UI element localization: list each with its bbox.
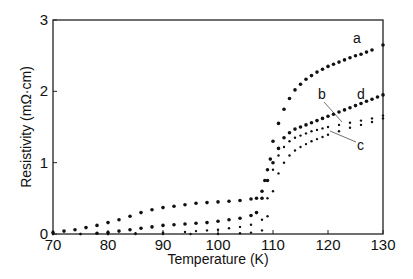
data-point bbox=[283, 146, 285, 148]
data-point bbox=[349, 127, 351, 129]
data-point bbox=[189, 233, 191, 235]
x-tick-label: 130 bbox=[370, 236, 395, 253]
y-tick-label: 1 bbox=[40, 154, 48, 171]
data-point bbox=[310, 121, 314, 125]
data-point bbox=[261, 229, 263, 231]
data-point bbox=[172, 204, 176, 208]
data-point bbox=[194, 202, 198, 206]
data-point bbox=[266, 168, 270, 172]
data-point bbox=[216, 219, 220, 223]
data-point bbox=[260, 189, 264, 193]
x-tick-label: 80 bbox=[100, 236, 117, 253]
data-point bbox=[266, 197, 268, 199]
data-point bbox=[107, 233, 109, 235]
data-point bbox=[282, 107, 286, 111]
data-point bbox=[365, 50, 369, 54]
data-point bbox=[354, 54, 358, 58]
data-point bbox=[272, 190, 274, 192]
data-point bbox=[95, 224, 99, 228]
data-point bbox=[106, 221, 110, 225]
series-a bbox=[51, 43, 385, 234]
data-point bbox=[238, 217, 242, 221]
data-point bbox=[217, 229, 219, 231]
data-point bbox=[216, 200, 220, 204]
data-point bbox=[239, 226, 241, 228]
data-point bbox=[337, 60, 341, 64]
data-point bbox=[294, 137, 296, 139]
data-series bbox=[51, 43, 385, 235]
data-point bbox=[338, 124, 340, 126]
data-point bbox=[337, 110, 341, 114]
curve-labels: a b d c bbox=[318, 30, 365, 153]
y-axis-title: Resistivity (mΩ·cm) bbox=[18, 66, 34, 188]
data-point bbox=[343, 58, 347, 62]
data-point bbox=[260, 197, 264, 201]
data-point bbox=[266, 179, 270, 183]
data-point bbox=[382, 114, 384, 116]
data-point bbox=[271, 161, 275, 165]
data-point bbox=[117, 229, 121, 233]
data-point bbox=[348, 106, 352, 110]
data-point bbox=[277, 154, 279, 156]
data-point bbox=[359, 102, 363, 106]
data-point bbox=[348, 56, 352, 60]
data-point bbox=[294, 149, 296, 151]
data-point bbox=[365, 100, 369, 104]
series-d bbox=[95, 93, 385, 235]
data-point bbox=[343, 108, 347, 112]
data-point bbox=[95, 232, 99, 236]
data-point bbox=[172, 223, 176, 227]
data-point bbox=[195, 230, 197, 232]
data-point bbox=[128, 214, 132, 218]
data-point bbox=[194, 222, 198, 226]
axis-ticks: 7080901001101201300123 bbox=[40, 11, 396, 253]
data-point bbox=[277, 122, 281, 126]
data-point bbox=[117, 218, 121, 222]
data-point bbox=[304, 77, 308, 81]
data-point bbox=[360, 119, 362, 121]
data-point bbox=[326, 65, 330, 69]
data-point bbox=[250, 231, 252, 233]
data-point bbox=[376, 95, 380, 99]
data-point bbox=[370, 97, 374, 101]
data-point bbox=[162, 233, 164, 235]
data-point bbox=[238, 199, 242, 203]
data-point bbox=[321, 136, 323, 138]
data-point bbox=[272, 169, 274, 171]
x-tick-label: 120 bbox=[315, 236, 340, 253]
data-point bbox=[227, 199, 231, 203]
data-point bbox=[315, 119, 319, 123]
data-point bbox=[73, 228, 77, 232]
data-point bbox=[228, 227, 230, 229]
data-point bbox=[277, 172, 279, 174]
data-point bbox=[315, 70, 319, 74]
data-point bbox=[217, 233, 219, 235]
data-point bbox=[327, 126, 329, 128]
data-point bbox=[161, 206, 165, 210]
data-point bbox=[288, 97, 292, 101]
data-point bbox=[249, 214, 253, 218]
data-point bbox=[293, 127, 297, 131]
data-point bbox=[321, 127, 323, 129]
data-point bbox=[299, 125, 303, 129]
curve-label-b: b bbox=[318, 86, 326, 102]
data-point bbox=[205, 201, 209, 205]
data-point bbox=[84, 226, 88, 230]
data-point bbox=[52, 233, 54, 235]
data-point bbox=[150, 208, 154, 212]
series-c bbox=[52, 117, 384, 235]
data-point bbox=[354, 104, 358, 108]
data-point bbox=[381, 93, 385, 97]
resistivity-chart: 7080901001101201300123 a b d c Temperatu… bbox=[0, 0, 413, 279]
data-point bbox=[299, 146, 301, 148]
data-point bbox=[206, 229, 208, 231]
data-point bbox=[161, 224, 165, 228]
data-point bbox=[359, 52, 363, 56]
data-point bbox=[381, 43, 385, 47]
data-point bbox=[128, 228, 132, 232]
data-point bbox=[184, 231, 186, 233]
data-point bbox=[205, 221, 209, 225]
data-point bbox=[371, 117, 373, 119]
data-point bbox=[382, 117, 384, 119]
y-tick-label: 3 bbox=[40, 11, 48, 28]
